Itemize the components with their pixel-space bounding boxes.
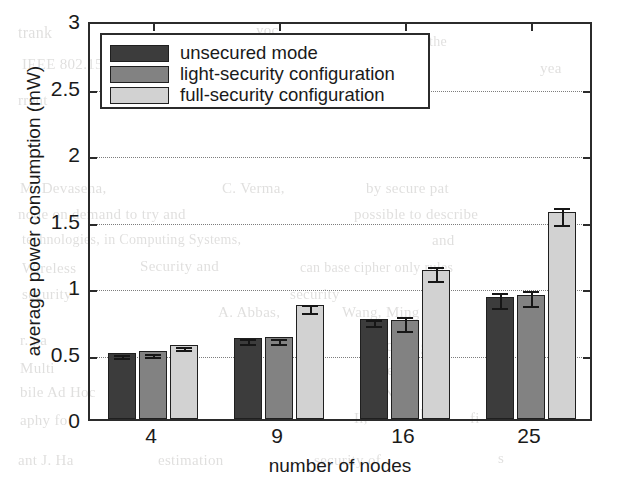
gridline xyxy=(90,224,590,225)
error-bar-cap xyxy=(271,344,287,346)
x-axis-tick-labels: 491625 xyxy=(88,424,592,454)
legend-item: unsecured mode xyxy=(110,43,318,63)
chart-legend: unsecured modelight-security configurati… xyxy=(100,33,430,109)
y-tick-mark xyxy=(583,157,590,159)
error-bar-cap xyxy=(428,281,444,283)
x-tick-mark xyxy=(405,24,407,31)
legend-label: light-security configuration xyxy=(180,65,395,84)
error-bar xyxy=(405,317,407,332)
error-bar-cap xyxy=(554,225,570,227)
error-bar xyxy=(531,291,533,306)
y-tick-label: 2 xyxy=(68,143,80,167)
x-tick-label: 9 xyxy=(271,424,283,448)
x-tick-mark xyxy=(153,24,155,31)
y-tick-mark xyxy=(90,91,97,93)
y-tick-mark xyxy=(90,290,97,292)
legend-item: light-security configuration xyxy=(110,64,395,84)
y-tick-mark xyxy=(583,290,590,292)
legend-label: unsecured mode xyxy=(180,44,318,63)
y-tick-mark xyxy=(90,224,97,226)
legend-swatch xyxy=(110,45,169,62)
error-bar-cap xyxy=(492,308,508,310)
y-tick-label: 1.5 xyxy=(51,210,80,234)
y-tick-mark xyxy=(583,357,590,359)
y-tick-label: 0 xyxy=(68,409,80,433)
legend-swatch xyxy=(110,66,169,83)
x-tick-label: 16 xyxy=(391,424,414,448)
error-bar-cap xyxy=(271,339,287,341)
y-tick-mark xyxy=(90,357,97,359)
bar xyxy=(234,338,262,419)
y-tick-mark xyxy=(583,224,590,226)
bar xyxy=(139,351,167,419)
error-bar-cap xyxy=(554,208,570,210)
bar xyxy=(360,319,388,419)
error-bar-cap xyxy=(176,350,192,352)
bar xyxy=(265,337,293,419)
error-bar-cap xyxy=(366,320,382,322)
error-bar-cap xyxy=(397,317,413,319)
bar xyxy=(486,297,514,419)
bar xyxy=(170,345,198,419)
gridline xyxy=(90,157,590,158)
legend-item: full-security configuration xyxy=(110,85,385,105)
error-bar-cap xyxy=(114,358,130,360)
error-bar-cap xyxy=(397,331,413,333)
bar xyxy=(422,270,450,419)
legend-label: full-security configuration xyxy=(180,86,385,105)
bar xyxy=(517,295,545,419)
y-tick-label: 2.5 xyxy=(51,77,80,101)
legend-swatch xyxy=(110,87,169,104)
error-bar-cap xyxy=(302,305,318,307)
error-bar-cap xyxy=(145,354,161,356)
error-bar xyxy=(500,293,502,308)
bar xyxy=(296,305,324,419)
error-bar-cap xyxy=(523,306,539,308)
bar-chart-figure: average power consumption (mW) 00.511.52… xyxy=(0,0,626,499)
error-bar-cap xyxy=(240,344,256,346)
error-bar-cap xyxy=(302,313,318,315)
x-axis-title: number of nodes xyxy=(88,455,592,477)
error-bar-cap xyxy=(145,357,161,359)
error-bar xyxy=(562,208,564,225)
error-bar-cap xyxy=(428,267,444,269)
bar xyxy=(391,320,419,419)
bar xyxy=(548,212,576,419)
y-axis-tick-labels: 00.511.522.53 xyxy=(0,0,88,499)
x-tick-label: 4 xyxy=(145,424,157,448)
error-bar-cap xyxy=(523,291,539,293)
gridline xyxy=(90,290,590,291)
x-tick-mark xyxy=(531,24,533,31)
error-bar-cap xyxy=(240,339,256,341)
x-tick-mark xyxy=(279,24,281,31)
error-bar xyxy=(436,267,438,282)
x-tick-label: 25 xyxy=(517,424,540,448)
y-tick-label: 1 xyxy=(68,276,80,300)
y-tick-mark xyxy=(583,91,590,93)
y-tick-label: 3 xyxy=(68,10,80,34)
error-bar-cap xyxy=(114,355,130,357)
y-tick-mark xyxy=(90,157,97,159)
error-bar-cap xyxy=(366,326,382,328)
error-bar-cap xyxy=(176,347,192,349)
bar xyxy=(108,353,136,420)
error-bar-cap xyxy=(492,293,508,295)
y-tick-label: 0.5 xyxy=(51,343,80,367)
